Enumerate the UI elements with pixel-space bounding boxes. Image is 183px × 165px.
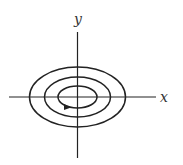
diagram-canvas: y x <box>0 0 183 165</box>
direction-arrow-icon <box>64 104 71 110</box>
y-axis-label: y <box>73 11 83 27</box>
x-axis-label: x <box>160 89 168 105</box>
phase-portrait-figure: y x <box>0 0 183 165</box>
